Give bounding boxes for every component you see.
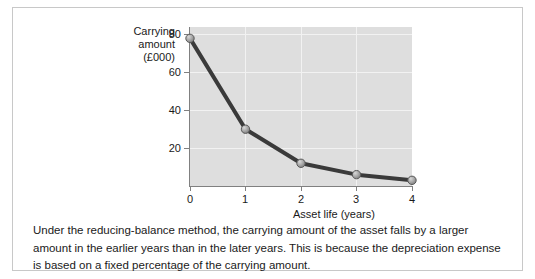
x-axis-tick-label-4: 4 [402, 194, 422, 205]
x-axis-tick-label-1: 1 [235, 194, 255, 205]
x-axis-tick-label-0: 0 [180, 194, 200, 205]
x-axis-title: Asset life (years) [293, 208, 375, 220]
x-axis-tick-2 [301, 186, 302, 191]
gridline-horizontal-y60 [190, 72, 412, 73]
y-axis-title-line-2: amount [109, 38, 175, 51]
chart-region: 80 60 40 20 0 1 2 3 4 Carrying amount (£… [13, 8, 524, 212]
gridline-horizontal-y80 [190, 34, 412, 35]
x-axis-tick-0 [190, 186, 191, 191]
gridline-vertical-x1 [245, 27, 246, 186]
plot-area [190, 27, 412, 186]
y-axis-tick-40 [184, 110, 190, 111]
y-axis-title-line-3: (£000) [109, 51, 175, 64]
x-axis-tick-3 [356, 186, 357, 191]
gridline-horizontal-y40 [190, 110, 412, 111]
figure-caption: Under the reducing-balance method, the c… [33, 222, 503, 275]
gridline-vertical-x2 [301, 27, 302, 186]
figure-frame: 80 60 40 20 0 1 2 3 4 Carrying amount (£… [12, 7, 523, 271]
x-axis-tick-label-3: 3 [346, 194, 366, 205]
x-axis-tick-4 [412, 186, 413, 191]
figure-container: 80 60 40 20 0 1 2 3 4 Carrying amount (£… [0, 0, 535, 279]
y-axis-tick-80 [184, 34, 190, 35]
y-axis-tick-label-40: 40 [169, 105, 181, 116]
gridline-vertical-x3 [356, 27, 357, 186]
x-axis-tick-label-2: 2 [291, 194, 311, 205]
y-axis-title: Carrying amount (£000) [109, 25, 175, 64]
y-axis-tick-label-60: 60 [169, 67, 181, 78]
y-axis-tick-20 [184, 148, 190, 149]
gridline-horizontal-y20 [190, 148, 412, 149]
y-axis-tick-label-20: 20 [169, 143, 181, 154]
y-axis-title-line-1: Carrying [109, 25, 175, 38]
x-axis-tick-1 [245, 186, 246, 191]
y-axis-line [189, 27, 190, 187]
y-axis-tick-60 [184, 72, 190, 73]
